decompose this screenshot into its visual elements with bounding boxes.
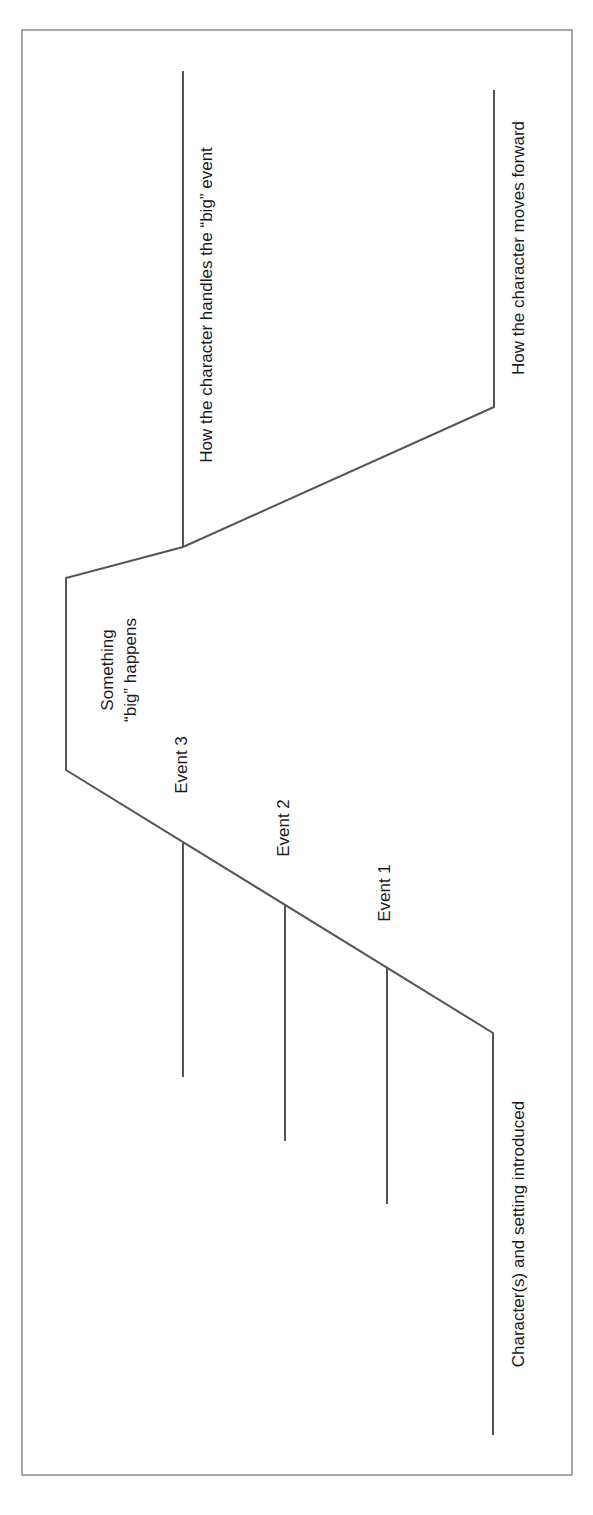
plot-arc-line [66,90,494,1435]
label-resolution: How the character moves forward [509,121,528,375]
label-climax-line2: “big” happens [121,618,140,722]
label-falling-action: How the character handles the “big” even… [197,147,216,463]
plot-diagram: Character(s) and setting introduced Even… [0,0,593,1515]
label-event-1: Event 1 [375,864,394,922]
diagram-frame [22,30,572,1475]
label-event-3: Event 3 [172,736,191,794]
label-climax-line1: Something [98,629,117,710]
label-event-2: Event 2 [274,799,293,857]
label-beginning: Character(s) and setting introduced [509,1101,528,1367]
